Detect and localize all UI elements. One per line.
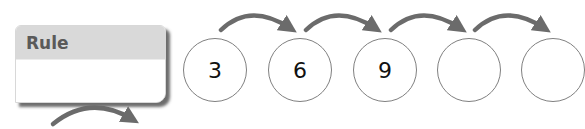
jump-arrow-icon (306, 15, 375, 30)
jump-arrow-icon (391, 15, 460, 30)
jump-arrow-icon (475, 15, 544, 30)
jump-arrow-icon (221, 15, 290, 30)
rule-arrow-icon (53, 108, 132, 124)
